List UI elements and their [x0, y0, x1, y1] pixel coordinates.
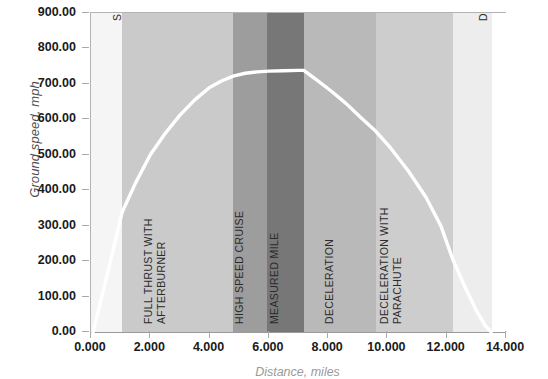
y-axis-tick-label: 500.00: [0, 147, 76, 161]
x-axis-tick-label: 6.000: [252, 340, 283, 354]
x-axis-tick-mark: [209, 331, 210, 338]
x-axis-tick-mark: [446, 331, 447, 338]
x-axis-tick-label: 4.000: [193, 340, 224, 354]
speed-curve-layer: [91, 13, 506, 332]
y-axis-tick-label: 600.00: [0, 111, 76, 125]
x-axis-title: Distance, miles: [90, 365, 505, 379]
y-axis-tick-label: 900.00: [0, 5, 76, 19]
x-axis-tick-label: 14.000: [486, 340, 524, 354]
speed-curve: [93, 70, 491, 332]
y-axis-tick-mark: [82, 154, 89, 155]
x-axis-tick-label: 8.000: [312, 340, 343, 354]
y-axis-tick-label: 300.00: [0, 218, 76, 232]
y-axis-tick-mark: [82, 189, 89, 190]
y-axis-tick-mark: [82, 47, 89, 48]
y-axis-tick-label: 400.00: [0, 182, 76, 196]
y-axis-tick-mark: [82, 260, 89, 261]
y-axis-tick-mark: [82, 296, 89, 297]
y-axis-tick-labels: 0.00100.00200.00300.00400.00500.00600.00…: [0, 0, 76, 372]
x-axis-tick-mark: [505, 331, 506, 338]
x-axis-tick-label: 2.000: [134, 340, 165, 354]
x-axis-tick-mark: [268, 331, 269, 338]
y-axis-tick-label: 100.00: [0, 289, 76, 303]
x-axis-tick-labels: 0.0002.0004.0006.0008.00010.00012.00014.…: [90, 331, 505, 341]
x-axis-tick-mark: [386, 331, 387, 338]
y-axis-tick-label: 200.00: [0, 253, 76, 267]
y-axis-tick-mark: [82, 118, 89, 119]
x-axis-tick-mark: [327, 331, 328, 338]
y-axis-tick-mark: [82, 83, 89, 84]
y-axis-tick-label: 0.00: [0, 324, 76, 338]
y-axis-tick-label: 800.00: [0, 40, 76, 54]
plot-area: SLOW ACCELERATIONFULL THRUST WITHAFTERBU…: [90, 12, 506, 333]
x-axis-tick-label: 0.000: [74, 340, 105, 354]
y-axis-tick-mark: [82, 225, 89, 226]
y-axis-tick-mark: [82, 12, 89, 13]
y-axis-tick-mark: [82, 331, 89, 332]
x-axis-tick-label: 10.000: [367, 340, 405, 354]
y-axis-tick-label: 700.00: [0, 76, 76, 90]
x-axis-tick-mark: [149, 331, 150, 338]
x-axis-tick-mark: [90, 331, 91, 338]
x-axis-tick-label: 12.000: [427, 340, 465, 354]
